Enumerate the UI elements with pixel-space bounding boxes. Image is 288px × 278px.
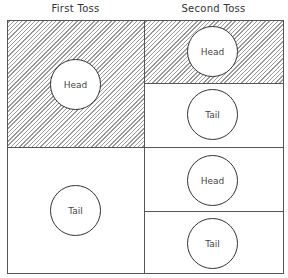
second-toss-tail-circle-2: Tail xyxy=(187,218,238,269)
second-toss-divider-3 xyxy=(144,211,284,212)
outcome-label: Head xyxy=(201,47,225,57)
second-toss-head-circle-2: Head xyxy=(187,155,238,206)
outcome-label: Head xyxy=(201,176,225,186)
second-toss-divider-1 xyxy=(144,83,284,84)
outcome-label: Head xyxy=(64,80,88,90)
first-toss-tail-circle: Tail xyxy=(50,185,101,236)
outcome-label: Tail xyxy=(68,206,83,216)
second-toss-tail-circle-1: Tail xyxy=(187,89,238,140)
second-toss-head-circle-1: Head xyxy=(187,26,238,77)
first-toss-head-circle: Head xyxy=(50,59,101,110)
first-toss-divider xyxy=(7,147,284,148)
outcome-label: Tail xyxy=(205,110,220,120)
second-toss-header: Second Toss xyxy=(144,3,283,14)
first-toss-header: First Toss xyxy=(7,3,144,14)
outcome-label: Tail xyxy=(205,239,220,249)
